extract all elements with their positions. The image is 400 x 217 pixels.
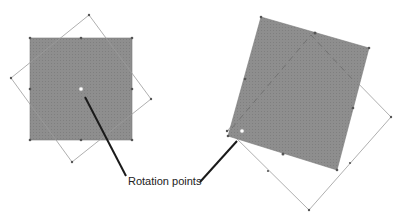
- right-leader-line: [200, 141, 237, 182]
- right-example: [226, 16, 392, 212]
- rotation-diagram: Rotation points: [0, 0, 400, 217]
- rotation-points-label: Rotation points: [128, 175, 201, 187]
- right-filled-shape: [228, 17, 369, 170]
- left-example: [10, 14, 152, 163]
- right-pivot-point: [240, 129, 244, 133]
- left-pivot-point: [79, 87, 83, 91]
